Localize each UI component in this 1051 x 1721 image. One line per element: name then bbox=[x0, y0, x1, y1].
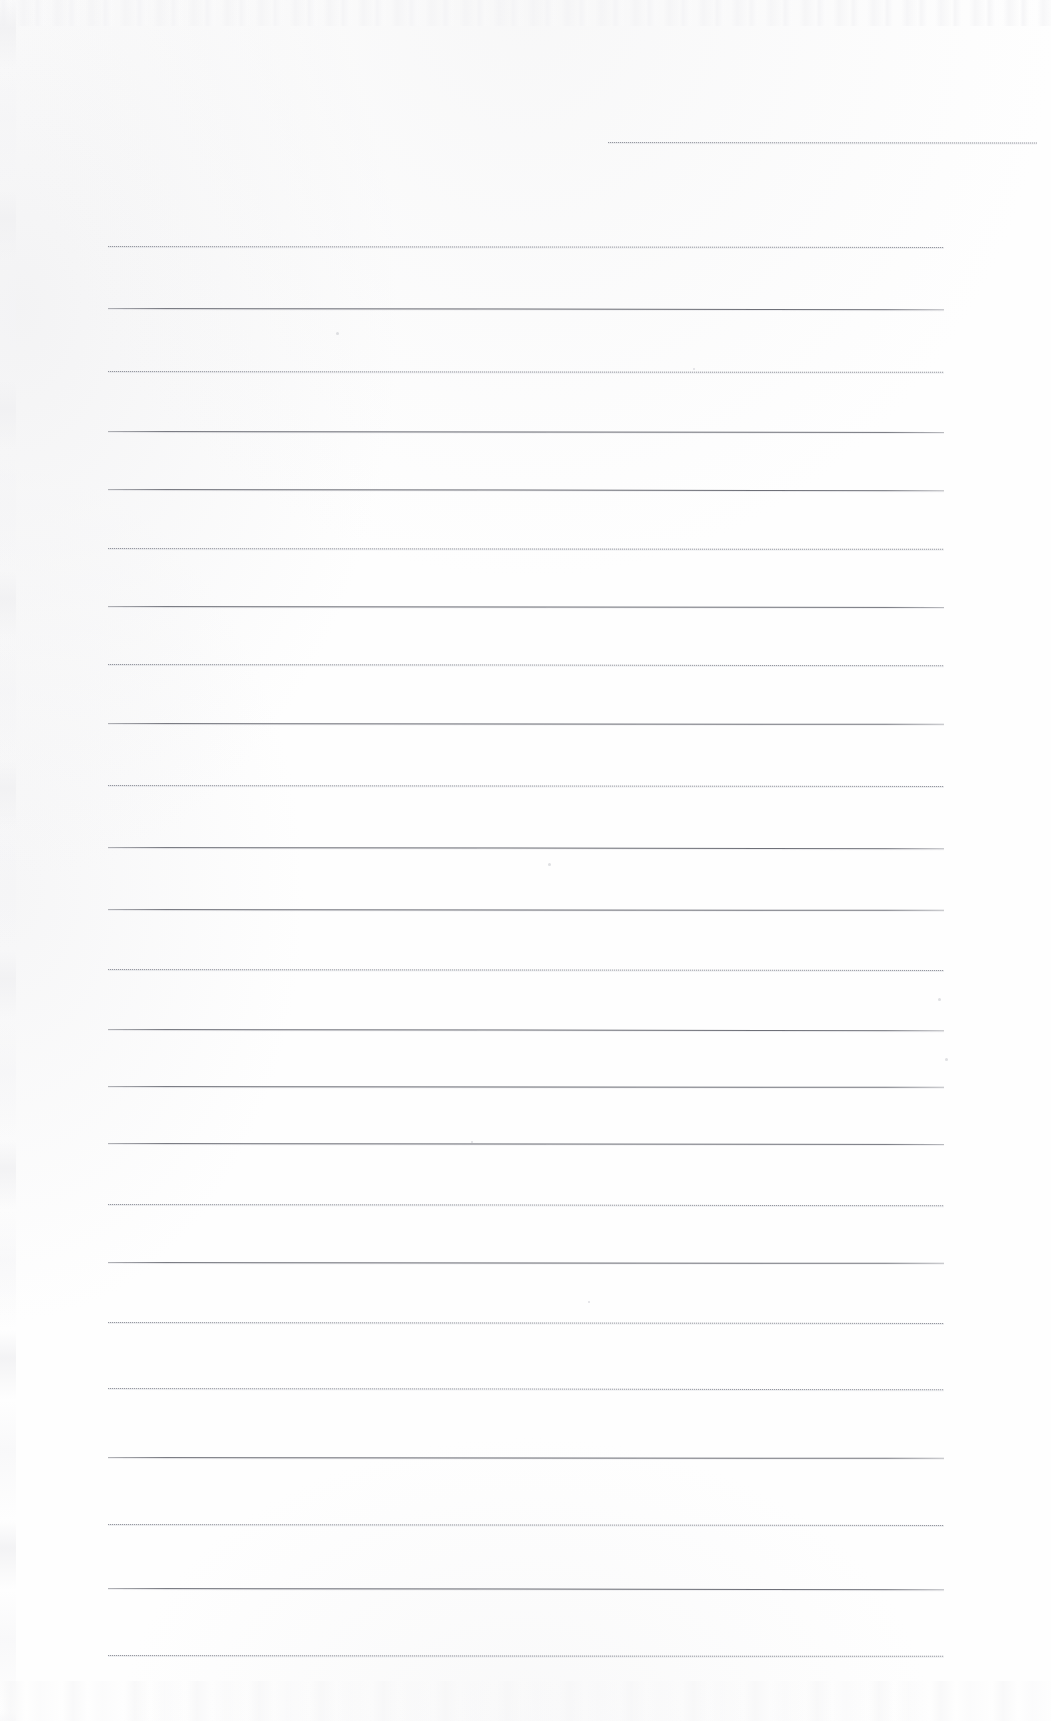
rule-line bbox=[108, 785, 944, 787]
rule-line bbox=[108, 371, 944, 373]
scan-artifact-top-edge bbox=[0, 0, 1051, 26]
rule-line bbox=[108, 1322, 944, 1324]
scan-speck bbox=[945, 1058, 948, 1061]
scan-artifact-bottom-edge bbox=[0, 1681, 1051, 1721]
rule-line bbox=[108, 1655, 944, 1657]
rule-line bbox=[108, 1388, 944, 1390]
rule-line bbox=[108, 431, 944, 433]
scanned-page bbox=[0, 0, 1051, 1721]
rule-line bbox=[108, 606, 944, 608]
scan-speck bbox=[336, 332, 339, 335]
rule-line bbox=[108, 1588, 944, 1590]
scan-speck bbox=[548, 863, 551, 866]
rule-line bbox=[608, 142, 1037, 143]
rule-line bbox=[108, 1457, 944, 1459]
rule-line bbox=[108, 1086, 944, 1088]
rule-line bbox=[108, 847, 944, 849]
scan-speck bbox=[588, 1301, 590, 1303]
rule-line bbox=[108, 1029, 944, 1031]
rule-line bbox=[108, 969, 944, 971]
rule-line bbox=[108, 909, 944, 911]
paper-background bbox=[0, 0, 1051, 1721]
rule-line bbox=[108, 723, 944, 725]
rule-line bbox=[108, 1143, 944, 1145]
rule-line bbox=[108, 246, 944, 248]
rule-line bbox=[108, 1524, 944, 1526]
scan-speck bbox=[693, 368, 695, 370]
rule-line bbox=[108, 1262, 944, 1264]
rule-line bbox=[108, 489, 944, 491]
scan-speck bbox=[938, 998, 941, 1001]
rule-line bbox=[108, 308, 944, 310]
rule-line bbox=[108, 664, 944, 666]
scan-speck bbox=[471, 1141, 473, 1143]
rule-line bbox=[108, 1204, 944, 1206]
rule-line bbox=[108, 548, 944, 550]
scan-artifact-left-edge bbox=[0, 0, 16, 1721]
